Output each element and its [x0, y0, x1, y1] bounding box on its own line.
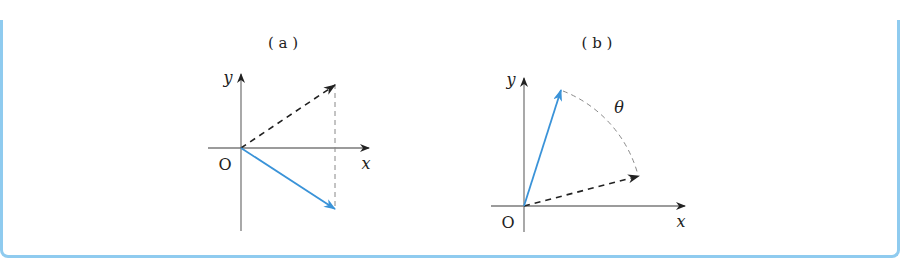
dashed-vector	[241, 85, 335, 148]
y-axis-label: y	[505, 70, 516, 89]
x-axis-label: x	[361, 154, 370, 173]
panel-a: ( a ) y x O	[208, 34, 371, 231]
panel-a-caption: ( a )	[268, 34, 298, 52]
origin-label: O	[218, 155, 231, 174]
panel-b: ( b ) y x O θ	[491, 34, 686, 232]
origin-label: O	[501, 213, 514, 232]
angle-label: θ	[614, 98, 624, 117]
figure-canvas: ( a ) y x O ( b ) y x O θ	[0, 0, 910, 274]
panel-b-caption: ( b )	[582, 34, 613, 52]
dashed-vector	[524, 176, 639, 206]
x-axis-label: x	[676, 212, 685, 231]
rotation-arc	[563, 91, 638, 175]
blue-vector	[241, 148, 335, 209]
blue-vector	[524, 90, 561, 206]
y-axis-label: y	[222, 68, 233, 87]
